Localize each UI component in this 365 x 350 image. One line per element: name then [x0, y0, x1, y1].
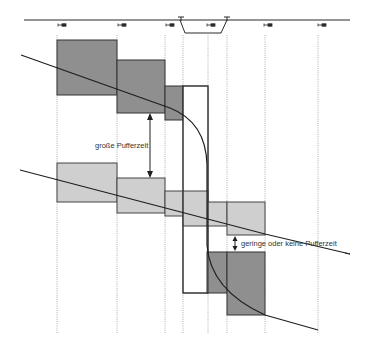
signal-icon	[318, 24, 326, 27]
signal-icon	[264, 24, 272, 27]
track-schematic	[24, 17, 350, 33]
train-1-siding-blocks	[207, 252, 265, 315]
small-buffer-label: geringe oder keine Pufferzeit	[241, 239, 338, 248]
signal-icons	[58, 24, 326, 27]
timetable-buffer-diagram: große Pufferzeit geringe oder keine Puff…	[0, 0, 365, 350]
siding-track	[180, 20, 227, 33]
signal-icon	[118, 24, 126, 27]
train-2-blocking-times	[57, 163, 265, 235]
small-buffer-arrow	[233, 236, 238, 251]
signal-icon	[58, 24, 66, 27]
large-buffer-label: große Pufferzeit	[95, 141, 149, 150]
signal-icon	[207, 24, 215, 27]
tick-mark	[345, 253, 350, 254]
signal-icon	[166, 24, 174, 27]
